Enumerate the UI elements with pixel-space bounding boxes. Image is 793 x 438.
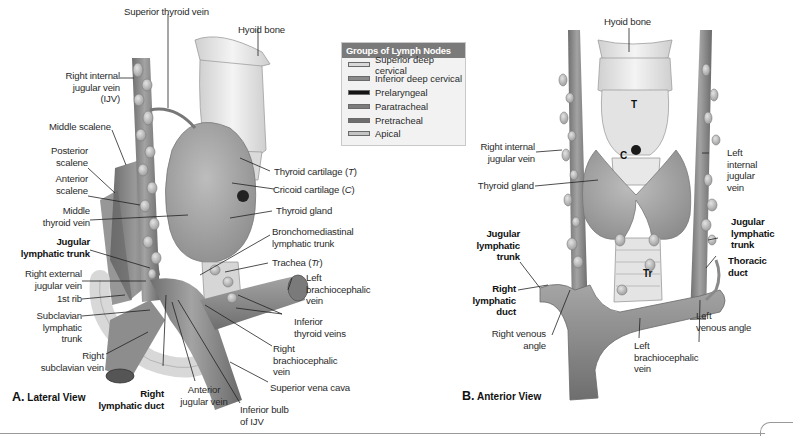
label-anterior-scalene: Anterior scalene xyxy=(40,173,88,196)
label-thyroid-gland-a: Thyroid gland xyxy=(276,205,332,217)
marker-cricoid-cartilage: C xyxy=(620,150,627,161)
label-hyoid-bone-a: Hyoid bone xyxy=(238,24,285,36)
label-right-internal-jugular-vein-b: Right internal jugular vein xyxy=(470,141,535,164)
label-right-subclavian-vein: Right subclavian vein xyxy=(30,350,104,373)
swatch-paratracheal xyxy=(348,104,370,109)
label-thyroid-gland-b: Thyroid gland xyxy=(470,180,534,192)
legend-item-prelaryngeal: Prelaryngeal xyxy=(342,86,465,100)
legend-item-inferior-deep-cervical: Inferior deep cervical xyxy=(342,72,465,86)
label-left-internal-jugular-vein: Left internal jugular vein xyxy=(727,147,757,193)
label-thoracic-duct: Thoracic duct xyxy=(728,255,767,278)
label-subclavian-lymphatic-trunk: Subclavian lymphatic trunk xyxy=(20,310,82,345)
marker-thyroid-cartilage: T xyxy=(631,99,637,110)
label-anterior-jugular-vein: Anterior jugular vein xyxy=(176,384,232,407)
swatch-superior-deep-cervical xyxy=(348,62,370,67)
legend-item-paratracheal: Paratracheal xyxy=(342,99,465,113)
page-bottom-rule xyxy=(0,433,765,434)
lymph-node-legend: Groups of Lymph Nodes Superior deep cerv… xyxy=(341,42,466,146)
label-superior-thyroid-vein: Superior thyroid vein xyxy=(124,6,209,18)
panel-b-title: B. Anterior View xyxy=(462,389,541,403)
lymphatic-drainage-figure: Superior thyroid vein Hyoid bone Right i… xyxy=(0,0,793,438)
swatch-inferior-deep-cervical xyxy=(348,76,370,81)
label-superior-vena-cava: Superior vena cava xyxy=(270,382,350,394)
legend-item-apical: Apical xyxy=(342,127,465,141)
label-trachea-a: Trachea (Tr) xyxy=(272,257,322,269)
swatch-prelaryngeal xyxy=(348,90,370,95)
label-thyroid-cartilage: Thyroid cartilage (T) xyxy=(274,166,357,178)
label-jugular-lymphatic-trunk-right-b: Jugular lymphatic trunk xyxy=(470,228,520,263)
label-right-internal-jugular-vein-a: Right internal jugular vein (IJV) xyxy=(52,70,120,105)
label-right-external-jugular-vein: Right external jugular vein xyxy=(10,268,82,291)
label-left-brachiocephalic-vein-a: Left brachiocephalic vein xyxy=(306,272,370,307)
label-bronchomediastinal-trunk: Bronchomediastinal lymphatic trunk xyxy=(272,226,354,249)
label-left-brachiocephalic-vein-b: Left brachiocephalic vein xyxy=(634,340,698,375)
label-cricoid-cartilage: Cricoid cartilage (C) xyxy=(273,184,355,196)
label-middle-scalene: Middle scalene xyxy=(49,121,111,133)
label-posterior-scalene: Posterior scalene xyxy=(40,145,88,168)
label-hyoid-bone-b: Hyoid bone xyxy=(604,16,651,28)
label-inferior-bulb-ijv: Inferior bulb of IJV xyxy=(240,404,289,427)
page-corner-tab xyxy=(760,422,793,436)
label-left-venous-angle: Left venous angle xyxy=(696,310,751,333)
swatch-pretracheal xyxy=(348,118,370,123)
label-inferior-thyroid-veins: Inferior thyroid veins xyxy=(294,316,346,339)
marker-trachea: Tr xyxy=(643,268,652,279)
label-first-rib: 1st rib xyxy=(40,293,82,305)
label-right-venous-angle: Right venous angle xyxy=(480,328,546,351)
label-right-brachiocephalic-vein: Right brachiocephalic vein xyxy=(273,343,337,378)
label-jugular-lymphatic-trunk-a: Jugular lymphatic trunk xyxy=(10,236,90,259)
label-middle-thyroid-vein: Middle thyroid vein xyxy=(30,205,90,228)
label-right-lymphatic-duct-a: Right lymphatic duct xyxy=(96,388,164,411)
label-right-lymphatic-duct-b: Right lymphatic duct xyxy=(470,283,516,318)
panel-a-title: A. Lateral View xyxy=(12,390,85,404)
legend-item-pretracheal: Pretracheal xyxy=(342,113,465,127)
label-jugular-lymphatic-trunk-left-b: Jugular lymphatic trunk xyxy=(731,216,774,251)
legend-item-superior-deep-cervical: Superior deep cervical xyxy=(342,58,465,72)
swatch-apical xyxy=(348,131,370,136)
